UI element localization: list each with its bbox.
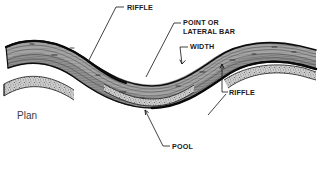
label-point-or-lateral-bar: POINT OR LATERAL BAR	[183, 19, 235, 36]
riffle-top-leader	[88, 7, 124, 62]
label-point-bar-line2: LATERAL BAR	[183, 28, 235, 37]
label-riffle-top: RIFFLE	[127, 4, 153, 13]
channel-flowlines	[0, 30, 322, 125]
label-riffle-right: RIFFLE	[229, 89, 255, 98]
point-bar-leader	[146, 23, 181, 77]
label-width: WIDTH	[190, 43, 214, 52]
width-leader	[180, 47, 188, 64]
outer-bank-pointer	[208, 94, 226, 115]
label-pool: POOL	[172, 143, 193, 152]
stream-plan-diagram	[0, 0, 322, 175]
pool-leader	[145, 110, 170, 146]
label-plan-view: Plan	[17, 110, 37, 121]
stream-channel	[0, 30, 322, 125]
